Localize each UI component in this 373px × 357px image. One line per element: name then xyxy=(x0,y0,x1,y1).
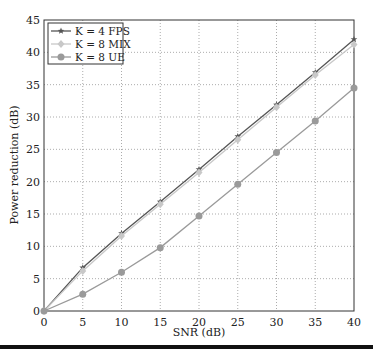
x-tick-label: 15 xyxy=(153,316,167,329)
series-2 xyxy=(41,84,358,314)
x-tick-label: 30 xyxy=(270,316,284,329)
legend: K = 4 FPSK = 8 MIXK = 8 UE xyxy=(48,23,131,64)
y-tick-label: 15 xyxy=(26,208,40,221)
y-tick-label: 20 xyxy=(26,176,40,189)
y-tick-label: 5 xyxy=(33,273,40,286)
y-axis-label: Power reduction (dB) xyxy=(8,105,21,224)
x-tick-label: 25 xyxy=(231,316,245,329)
line-chart: 0510152025303540051015202530354045 SNR (… xyxy=(0,0,373,357)
y-tick-label: 45 xyxy=(26,14,40,27)
svg-text:K = 8 UE: K = 8 UE xyxy=(75,51,125,63)
y-tick-label: 30 xyxy=(26,111,40,124)
x-tick-label: 0 xyxy=(41,316,48,329)
y-tick-label: 10 xyxy=(26,240,40,253)
bottom-rule xyxy=(0,345,373,349)
y-tick-label: 25 xyxy=(26,143,40,156)
x-tick-label: 10 xyxy=(115,316,129,329)
x-tick-label: 5 xyxy=(79,316,86,329)
y-tick-label: 40 xyxy=(26,46,40,59)
x-tick-label: 35 xyxy=(308,316,322,329)
y-tick-label: 35 xyxy=(26,79,40,92)
x-axis-label: SNR (dB) xyxy=(173,326,226,339)
series-1 xyxy=(41,41,358,315)
y-tick-label: 0 xyxy=(33,305,40,318)
svg-text:K = 4 FPS: K = 4 FPS xyxy=(75,25,130,37)
svg-text:K = 8 MIX: K = 8 MIX xyxy=(75,38,131,50)
x-tick-label: 40 xyxy=(347,316,361,329)
